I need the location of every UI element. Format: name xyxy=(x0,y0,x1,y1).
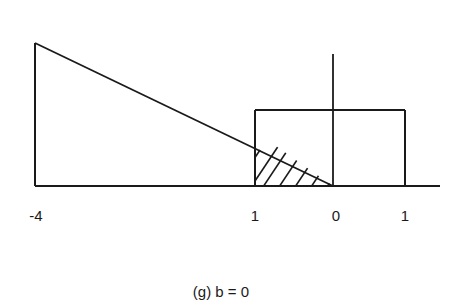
figure-caption: (g) b = 0 xyxy=(193,283,249,300)
tick-label-minus-4: -4 xyxy=(29,207,42,224)
triangle-function xyxy=(35,43,333,186)
tick-label-0: 0 xyxy=(332,207,340,224)
tick-label-minus-1: 1 xyxy=(251,207,259,224)
tick-label-1: 1 xyxy=(401,207,409,224)
convolution-diagram: -4 1 0 1 (g) b = 0 xyxy=(0,0,458,304)
